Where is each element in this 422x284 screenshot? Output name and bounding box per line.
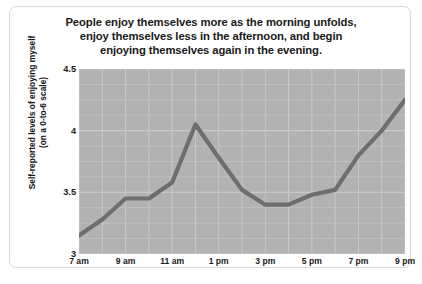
chart-title-line-2: enjoy themselves less in the afternoon, … [34,29,388,43]
x-tick-label: 7 pm [348,256,368,266]
y-tick-label: 4.5 [52,64,76,74]
chart-title: People enjoy themselves more as the morn… [34,15,388,58]
x-tick-label: 9 pm [395,256,415,266]
y-tick-label: 4 [52,126,76,136]
x-tick-label: 7 am [69,256,89,266]
x-axis-ticks: 7 am9 am11 am1 pm3 pm5 pm7 pm9 pm [79,256,405,270]
line-chart-svg [79,69,405,254]
x-tick-label: 9 am [116,256,136,266]
plot-area [79,69,405,254]
y-axis-ticks: 33.544.5 [43,69,76,254]
y-tick-label: 3.5 [52,187,76,197]
y-axis-label-line-1: Self-reported levels of enjoying myself [27,23,38,203]
x-tick-label: 1 pm [209,256,229,266]
x-tick-label: 5 pm [302,256,322,266]
x-tick-label: 3 pm [255,256,275,266]
chart-card: People enjoy themselves more as the morn… [9,6,411,268]
x-tick-label: 11 am [160,256,184,266]
chart-title-line-1: People enjoy themselves more as the morn… [34,15,388,29]
chart-title-line-3: enjoying themselves again in the evening… [34,43,388,57]
